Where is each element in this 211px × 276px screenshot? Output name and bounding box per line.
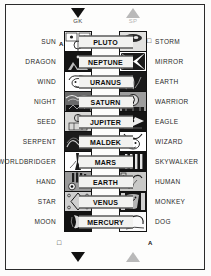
left-seal-label: SUN [41, 38, 56, 45]
left-seal-label: WIND [37, 78, 56, 85]
list-item: SEED [0, 111, 60, 132]
left-seal-labels: SUN DRAGON WIND NIGHT SEED SERPENT WORLD… [0, 31, 60, 232]
table-row: VENUS [88, 191, 123, 212]
right-seal-label: WIZARD [155, 138, 183, 145]
list-item: HUMAN [151, 171, 211, 192]
table-row: MARS [88, 151, 123, 172]
dog-marker: A [148, 240, 152, 246]
left-seal-label: HAND [36, 178, 56, 185]
right-seal-label: EAGLE [155, 118, 178, 125]
right-bottom-arrow [119, 252, 147, 262]
table-row: SATURN [88, 91, 123, 112]
sun-marker: A [59, 41, 63, 47]
planet-labels: PLUTO NEPTUNE URANUS SATURN JUPITER MALD… [88, 31, 123, 232]
table-row: EARTH [88, 171, 123, 192]
list-item: WARRIOR [151, 91, 211, 112]
planet-label: EARTH [79, 175, 133, 188]
storm-marker: □ [147, 38, 151, 44]
left-top-arrow-label: GK [64, 18, 92, 25]
diagram-canvas: GK SP SUN DRAGON WIND NIGHT SEED SERPENT… [0, 0, 211, 276]
list-item: NIGHT [0, 91, 60, 112]
right-seal-label: SKYWALKER [155, 158, 198, 165]
right-top-arrow: SP [119, 8, 147, 25]
planet-label: MARS [79, 155, 133, 168]
right-seal-label: HUMAN [155, 178, 181, 185]
planet-label: URANUS [79, 75, 133, 88]
table-row: JUPITER [88, 111, 123, 132]
list-item: WIND [0, 71, 60, 92]
list-item: DRAGON [0, 51, 60, 72]
list-item: MIRROR [151, 51, 211, 72]
list-item: MONKEY [151, 191, 211, 212]
list-item: SUN [0, 31, 60, 52]
planet-label: PLUTO [79, 35, 133, 48]
up-triangle-icon [126, 252, 140, 262]
right-seal-label: MONKEY [155, 198, 185, 205]
left-seal-label: WORLDBRIDGER [0, 158, 56, 165]
planet-label: MALDEK [79, 135, 133, 148]
moon-marker: □ [57, 240, 61, 246]
left-top-arrow: GK [64, 8, 92, 25]
left-seal-label: NIGHT [34, 98, 56, 105]
planet-label: SATURN [79, 95, 133, 108]
planet-label: JUPITER [79, 115, 133, 128]
right-seal-label: MIRROR [155, 58, 183, 65]
table-row: URANUS [88, 71, 123, 92]
list-item: HAND [0, 171, 60, 192]
left-bottom-arrow [64, 252, 92, 262]
right-seal-label: STORM [155, 38, 180, 45]
list-item: STAR [0, 191, 60, 212]
up-triangle-icon [126, 8, 140, 18]
left-seal-label: SEED [37, 118, 56, 125]
list-item: WIZARD [151, 131, 211, 152]
left-seal-label: STAR [38, 198, 56, 205]
planet-label: MERCURY [79, 215, 133, 228]
table-row: NEPTUNE [88, 51, 123, 72]
left-seal-label: DRAGON [25, 58, 56, 65]
list-item: STORM [151, 31, 211, 52]
right-seal-labels: STORM MIRROR EARTH WARRIOR EAGLE WIZARD … [151, 31, 211, 232]
table-row: MERCURY [88, 211, 123, 232]
down-triangle-icon [71, 8, 85, 18]
right-seal-label: WARRIOR [155, 98, 189, 105]
right-top-arrow-label: SP [119, 18, 147, 25]
planet-label: NEPTUNE [79, 55, 133, 68]
left-seal-label: MOON [34, 218, 56, 225]
table-row: PLUTO [88, 31, 123, 52]
table-row: MALDEK [88, 131, 123, 152]
list-item: DOG [151, 211, 211, 232]
right-seal-label: DOG [155, 218, 171, 225]
right-seal-label: EARTH [155, 78, 179, 85]
left-seal-label: SERPENT [23, 138, 56, 145]
planet-label: VENUS [79, 195, 133, 208]
list-item: MOON [0, 211, 60, 232]
list-item: SERPENT [0, 131, 60, 152]
list-item: EARTH [151, 71, 211, 92]
down-triangle-icon [71, 252, 85, 262]
list-item: EAGLE [151, 111, 211, 132]
list-item: SKYWALKER [151, 151, 211, 172]
list-item: WORLDBRIDGER [0, 151, 60, 172]
